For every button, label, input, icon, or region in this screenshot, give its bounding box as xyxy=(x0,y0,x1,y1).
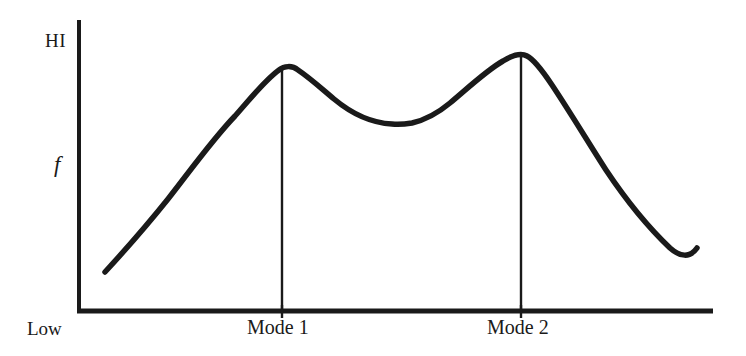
y-axis-bottom-label: Low xyxy=(27,319,62,338)
figure-background xyxy=(0,0,746,356)
bimodal-distribution-figure xyxy=(0,0,746,356)
y-axis-variable-label: f xyxy=(54,153,60,176)
x-axis-label-mode-1: Mode 1 xyxy=(247,317,309,337)
y-axis-top-label: HI xyxy=(45,31,66,50)
x-axis-label-mode-2: Mode 2 xyxy=(487,317,549,337)
